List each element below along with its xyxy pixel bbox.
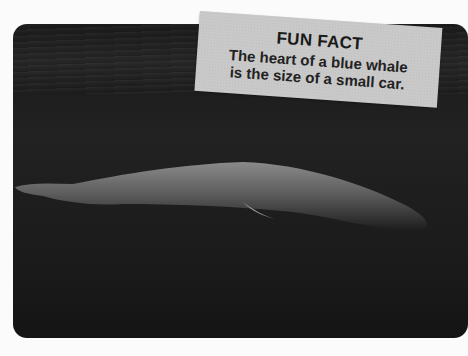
fun-fact-card: FUN FACT The heart of a blue whale is th… (194, 11, 442, 108)
